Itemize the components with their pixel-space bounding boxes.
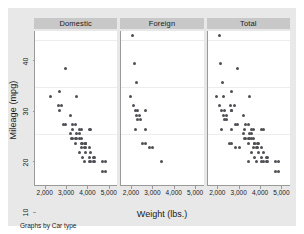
- data-point: [248, 132, 251, 135]
- data-point: [160, 160, 163, 163]
- y-tick-label: 20: [19, 157, 32, 167]
- x-axis-title: Weight (lbs.): [34, 209, 290, 219]
- data-point: [229, 104, 232, 107]
- data-point: [247, 142, 250, 145]
- data-point: [222, 95, 225, 98]
- data-point: [223, 118, 226, 121]
- data-point: [262, 128, 265, 131]
- data-point: [242, 114, 245, 117]
- data-point: [220, 128, 223, 131]
- data-point: [80, 137, 83, 140]
- panel-total: Total2,0003,0004,0005,000: [207, 18, 290, 198]
- y-tick-label-text: 30: [22, 108, 29, 116]
- data-point: [88, 156, 91, 159]
- y-tick-label: 30: [19, 107, 32, 117]
- x-tick-label: 2,000: [123, 189, 139, 196]
- plot-area: [120, 31, 203, 186]
- x-tick-label: 5,000: [101, 189, 117, 196]
- data-point: [57, 104, 60, 107]
- x-tick-label: 2,000: [37, 189, 53, 196]
- data-point: [220, 109, 223, 112]
- data-point: [144, 109, 147, 112]
- data-point: [260, 156, 263, 159]
- gridline: [35, 87, 117, 88]
- data-point: [58, 90, 61, 93]
- data-point: [129, 95, 132, 98]
- data-point: [71, 128, 74, 131]
- data-point: [139, 118, 142, 121]
- data-point: [215, 95, 218, 98]
- data-point: [248, 95, 251, 98]
- plot-area: [34, 31, 117, 186]
- data-point: [218, 104, 221, 107]
- data-point: [218, 34, 221, 37]
- y-tick-label-text: 10: [22, 209, 29, 217]
- x-tick-label: 3,000: [144, 189, 160, 196]
- data-point: [236, 67, 239, 70]
- data-point: [75, 95, 78, 98]
- y-tick-label-text: 40: [22, 57, 29, 65]
- data-point: [247, 160, 250, 163]
- y-tick-label-text: 20: [22, 158, 29, 166]
- data-point: [104, 170, 107, 173]
- data-point: [83, 160, 86, 163]
- data-point: [277, 160, 280, 163]
- data-point: [78, 128, 81, 131]
- data-point: [78, 151, 81, 154]
- gridline: [208, 40, 290, 41]
- x-tick-label: 4,000: [252, 189, 268, 196]
- x-tick-label: 4,000: [166, 189, 182, 196]
- chart-note: Graphs by Car type: [20, 222, 76, 229]
- data-point: [84, 151, 87, 154]
- data-point: [89, 151, 92, 154]
- y-tick-label: 10: [19, 208, 32, 218]
- data-point: [144, 128, 147, 131]
- data-point: [69, 132, 72, 135]
- data-point: [233, 104, 236, 107]
- data-point: [252, 137, 255, 140]
- panel-header: Total: [207, 18, 290, 29]
- data-point: [256, 146, 259, 149]
- data-point: [230, 142, 233, 145]
- data-point: [74, 123, 77, 126]
- data-point: [151, 146, 154, 149]
- data-point: [132, 104, 135, 107]
- gridline: [208, 87, 290, 88]
- panel-header: Domestic: [34, 18, 117, 29]
- y-axis-title-text: Mileage (mpg): [8, 81, 18, 140]
- data-point: [89, 128, 92, 131]
- data-point: [60, 104, 63, 107]
- data-point: [277, 170, 280, 173]
- data-point: [138, 114, 141, 117]
- data-point: [88, 160, 91, 163]
- data-point: [84, 142, 87, 145]
- data-point: [93, 156, 96, 159]
- x-tick-label: 3,000: [58, 189, 74, 196]
- data-point: [84, 146, 87, 149]
- data-point: [257, 151, 260, 154]
- data-point: [144, 142, 147, 145]
- data-point: [81, 156, 84, 159]
- data-point: [253, 156, 256, 159]
- data-point: [230, 109, 233, 112]
- data-point: [80, 146, 83, 149]
- y-axis-title: Mileage (mpg): [6, 30, 20, 190]
- gridline: [121, 40, 203, 41]
- data-point: [255, 160, 258, 163]
- panel-domestic: Domestic2,0003,0004,0005,000: [34, 18, 117, 198]
- x-tick-label: 3,000: [231, 189, 247, 196]
- data-point: [230, 128, 233, 131]
- y-tick-label: 40: [19, 56, 32, 66]
- data-point: [134, 128, 137, 131]
- x-axis-ticks: 2,0003,0004,0005,000: [120, 186, 203, 198]
- gridline: [35, 40, 117, 41]
- data-point: [131, 34, 134, 37]
- data-point: [58, 109, 61, 112]
- data-point: [250, 151, 253, 154]
- data-point: [260, 146, 263, 149]
- data-point: [225, 114, 228, 117]
- data-point: [74, 142, 77, 145]
- data-point: [230, 90, 233, 93]
- data-point: [266, 156, 269, 159]
- plot-area: [207, 31, 290, 186]
